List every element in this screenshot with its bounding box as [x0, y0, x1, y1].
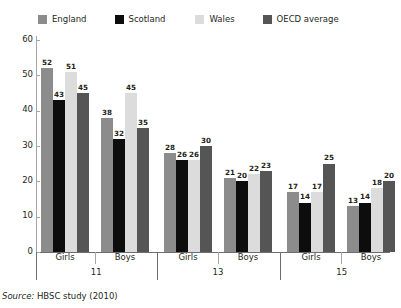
bar: 43	[53, 40, 65, 252]
bar: 26	[176, 40, 188, 252]
category-label-boys: Boys	[346, 253, 396, 262]
bar: 21	[224, 40, 236, 252]
bar-rect	[299, 203, 311, 252]
bar-rect	[236, 181, 248, 252]
age-group-label-11: 11	[76, 268, 116, 277]
bar-rect	[248, 174, 260, 252]
bar: 45	[125, 40, 137, 252]
category-label-boys: Boys	[100, 253, 150, 262]
bar-rect	[101, 118, 113, 252]
legend-label-england: England	[52, 15, 87, 24]
bar-rect	[125, 93, 137, 252]
bar-group: 13141820	[347, 40, 395, 252]
category-label-girls: Girls	[163, 253, 213, 262]
bar-rect	[347, 206, 359, 252]
chart-legend: England Scotland Wales OECD average	[0, 10, 401, 28]
bar-rect	[176, 160, 188, 252]
bar-value-label: 20	[377, 172, 401, 179]
plot-area: 0102030405060 52435145383245352826263021…	[0, 30, 401, 262]
bar: 20	[236, 40, 248, 252]
bar-value-label: 25	[317, 154, 341, 161]
axis-separator-minor	[341, 252, 342, 264]
source-text: HBSC study (2010)	[37, 291, 118, 301]
bars-layer: 5243514538324535282626302120222317141725…	[0, 30, 401, 262]
source-label: Source:	[2, 291, 34, 301]
category-label-boys: Boys	[223, 253, 273, 262]
age-group-label-15: 15	[322, 268, 362, 277]
bar: 26	[188, 40, 200, 252]
bar-rect	[65, 72, 77, 252]
bar-rect	[137, 128, 149, 252]
bar: 17	[311, 40, 323, 252]
source-note: Source: HBSC study (2010)	[2, 292, 118, 301]
bar-group: 52435145	[41, 40, 89, 252]
bar-rect	[53, 100, 65, 252]
bar-value-label: 35	[131, 119, 155, 126]
bar: 14	[299, 40, 311, 252]
legend-item-oecd-average: OECD average	[263, 15, 339, 24]
bar: 17	[287, 40, 299, 252]
bar: 22	[248, 40, 260, 252]
axis-separator-major	[157, 252, 158, 280]
legend-swatch-england	[38, 15, 47, 24]
bar-rect	[164, 153, 176, 252]
bar-value-label: 30	[194, 137, 218, 144]
axis-separator-minor	[218, 252, 219, 264]
bar-rect	[77, 93, 89, 252]
bar-group: 17141725	[287, 40, 335, 252]
legend-item-wales: Wales	[195, 15, 234, 24]
bar: 20	[383, 40, 395, 252]
bar-rect	[113, 139, 125, 252]
bar-rect	[260, 171, 272, 252]
bar-group: 28262630	[164, 40, 212, 252]
category-label-girls: Girls	[286, 253, 336, 262]
bar: 38	[101, 40, 113, 252]
bar: 25	[323, 40, 335, 252]
bar: 13	[347, 40, 359, 252]
bar-value-label: 23	[254, 162, 278, 169]
bar: 23	[260, 40, 272, 252]
bar: 18	[371, 40, 383, 252]
bar: 52	[41, 40, 53, 252]
bar-group: 21202223	[224, 40, 272, 252]
bar: 32	[113, 40, 125, 252]
bar-rect	[383, 181, 395, 252]
bar: 51	[65, 40, 77, 252]
axis-separator-minor	[95, 252, 96, 264]
bar-rect	[359, 203, 371, 252]
bar: 35	[137, 40, 149, 252]
legend-swatch-scotland	[115, 15, 124, 24]
bar-rect	[371, 188, 383, 252]
legend-item-england: England	[38, 15, 87, 24]
age-group-label-13: 13	[198, 268, 238, 277]
bar-value-label: 45	[71, 84, 95, 91]
bar-rect	[200, 146, 212, 252]
bar: 30	[200, 40, 212, 252]
bar-rect	[323, 164, 335, 252]
bar-rect	[188, 160, 200, 252]
bar-rect	[287, 192, 299, 252]
bar: 28	[164, 40, 176, 252]
bar-group: 38324535	[101, 40, 149, 252]
bar: 14	[359, 40, 371, 252]
legend-label-scotland: Scotland	[129, 15, 166, 24]
legend-label-oecd-average: OECD average	[277, 15, 339, 24]
category-axis: GirlsBoysGirlsBoysGirlsBoys111315	[0, 252, 401, 288]
bar-rect	[311, 192, 323, 252]
bar-rect	[224, 178, 236, 252]
legend-item-scotland: Scotland	[115, 15, 166, 24]
axis-separator-major	[280, 252, 281, 280]
category-label-girls: Girls	[40, 253, 90, 262]
bar: 45	[77, 40, 89, 252]
legend-swatch-wales	[195, 15, 204, 24]
axis-separator-major	[36, 252, 37, 280]
legend-label-wales: Wales	[209, 15, 234, 24]
legend-swatch-oecd-average	[263, 15, 272, 24]
